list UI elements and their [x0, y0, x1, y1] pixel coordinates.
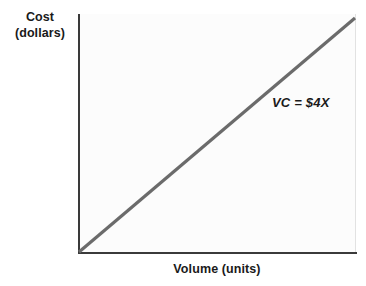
variable-cost-line [79, 18, 355, 252]
variable-cost-equation-label: VC = $4X [272, 95, 330, 110]
x-axis-title: Volume (units) [78, 262, 356, 276]
variable-cost-chart: Cost (dollars) VC = $4X Volume (units) [0, 0, 366, 286]
series-layer [0, 0, 366, 286]
